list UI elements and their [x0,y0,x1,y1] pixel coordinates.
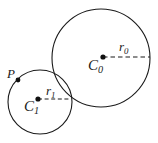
label-radius-small: r1 [46,84,55,100]
figure-canvas [0,0,158,143]
point-p-dot [16,78,21,83]
geometry-figure: C0 r0 C1 r1 P [0,0,158,143]
label-center-small-text: C [24,98,34,114]
label-center-small: C1 [24,99,39,116]
label-radius-small-subscript: 1 [51,90,55,100]
label-point-p: P [7,67,15,80]
label-center-small-subscript: 1 [34,105,39,116]
label-radius-large: r0 [119,40,128,56]
label-center-large-text: C [88,57,98,73]
label-center-large: C0 [88,58,103,75]
label-center-large-subscript: 0 [98,64,103,75]
label-radius-large-subscript: 0 [124,46,128,56]
